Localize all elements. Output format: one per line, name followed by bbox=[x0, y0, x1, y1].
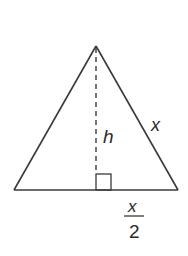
fraction-numerator: x bbox=[127, 197, 137, 216]
side-label: x bbox=[150, 115, 161, 135]
left-side bbox=[14, 46, 96, 190]
right-angle-marker bbox=[96, 174, 111, 190]
triangle-diagram: h x x 2 bbox=[0, 0, 188, 256]
half-base-fraction: x 2 bbox=[124, 197, 144, 242]
height-label: h bbox=[103, 126, 114, 147]
right-side bbox=[96, 46, 178, 190]
fraction-denominator: 2 bbox=[129, 221, 140, 242]
